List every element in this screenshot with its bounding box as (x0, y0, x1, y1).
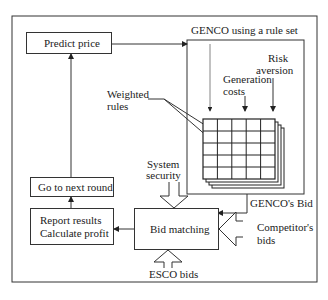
competitors-bids-label-1: Competitor's (257, 221, 313, 233)
bid-matching-box: Bid matching (134, 208, 219, 250)
genco-box-label: GENCO using a rule set (191, 24, 298, 36)
weighted-rules-pointer-a (164, 99, 208, 127)
weighted-rules-pointer-b (164, 99, 208, 137)
competitors-bids-label-2: bids (257, 234, 275, 246)
predict-price-box: Predict price (26, 32, 112, 54)
esco-bids-label: ESCO bids (149, 268, 198, 280)
gencos-bid-label: GENCO's Bid (250, 197, 313, 209)
risk-aversion-label-1: Risk (268, 52, 288, 64)
predict-price-label: Predict price (44, 37, 100, 49)
go-next-round-box: Go to next round (30, 177, 114, 197)
arrow-genco-bid (218, 194, 247, 213)
bid-matching-label: Bid matching (150, 223, 210, 235)
go-next-round-label: Go to next round (38, 181, 113, 193)
system-security-arrow (160, 182, 188, 208)
generation-costs-label-2: costs (223, 85, 245, 97)
calculate-profit-label: Calculate profit (40, 227, 109, 239)
esco-bids-arrow (154, 250, 182, 268)
rule-grid-stack (203, 119, 284, 188)
generation-costs-label-1: Generation (223, 73, 272, 85)
report-results-label: Report results (40, 214, 101, 226)
weighted-rules-label-2: rules (107, 100, 128, 112)
competitor-bids-arrow (219, 212, 243, 246)
system-security-label-2: security (146, 169, 181, 181)
report-results-box: Report results Calculate profit (30, 208, 114, 245)
weighted-rules-label-1: Weighted (107, 88, 149, 100)
